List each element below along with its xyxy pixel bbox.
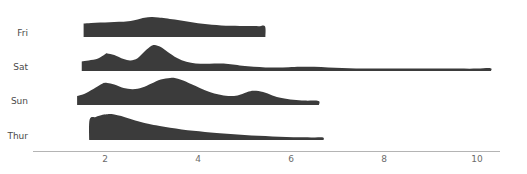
x-tick-label-2: 2 [102,154,108,164]
x-tick-labels-group: 246810 [102,154,483,164]
x-tick-label-10: 10 [471,154,483,164]
ridge-areas-group [77,17,492,140]
ridge-area-sun [77,78,319,105]
ridge-area-sat [82,45,492,71]
category-label-fri: Fri [17,28,28,38]
x-tick-label-6: 6 [288,154,294,164]
x-tick-label-4: 4 [195,154,201,164]
category-label-thur: Thur [6,131,28,141]
category-label-sun: Sun [11,96,28,106]
ridgeline-chart: FriSatSunThur 246810 [0,0,527,174]
ridgeline-plot-canvas: FriSatSunThur 246810 [0,0,527,174]
x-tick-label-8: 8 [381,154,387,164]
ridge-area-fri [84,17,266,37]
category-label-sat: Sat [13,62,28,72]
ridge-area-thur [89,114,324,140]
category-labels-group: FriSatSunThur [6,28,28,141]
